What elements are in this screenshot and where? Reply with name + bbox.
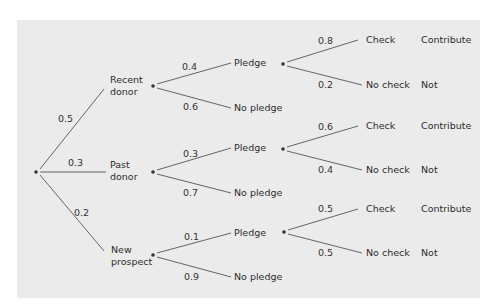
outcome-label: Not xyxy=(421,164,438,175)
category-label: Past xyxy=(110,159,130,170)
pledge-label: Pledge xyxy=(234,227,266,238)
category-label: donor xyxy=(110,86,138,97)
pledge-probability: 0.4 xyxy=(182,61,197,72)
chance-node xyxy=(151,84,155,88)
category-label: New xyxy=(111,244,132,255)
outcome-label: Contribute xyxy=(421,34,472,45)
chance-node xyxy=(151,253,155,257)
chance-node xyxy=(281,147,285,151)
pledge-probability: 0.3 xyxy=(183,148,198,159)
check-label: Check xyxy=(366,120,396,131)
category-label: prospect xyxy=(111,256,153,267)
branch-probability: 0.2 xyxy=(74,207,89,218)
no-pledge-probability: 0.6 xyxy=(183,101,198,112)
no-check-label: No check xyxy=(366,164,410,175)
check-probability: 0.8 xyxy=(318,35,333,46)
pledge-probability: 0.1 xyxy=(184,231,199,242)
outcome-label: Not xyxy=(421,247,438,258)
chance-node xyxy=(151,170,155,174)
no-check-label: No check xyxy=(366,79,410,90)
pledge-label: Pledge xyxy=(234,57,266,68)
probability-tree: 0.5Recentdonor0.3Pastdonor0.2Newprospect… xyxy=(0,0,497,307)
no-pledge-label: No pledge xyxy=(234,102,283,113)
no-pledge-label: No pledge xyxy=(234,187,283,198)
no-pledge-probability: 0.9 xyxy=(184,271,199,282)
no-check-probability: 0.4 xyxy=(318,164,333,175)
no-pledge-label: No pledge xyxy=(234,271,283,282)
outcome-label: Contribute xyxy=(421,203,472,214)
check-probability: 0.6 xyxy=(318,121,333,132)
branch-probability: 0.5 xyxy=(58,113,73,124)
chance-node xyxy=(282,230,286,234)
chance-node xyxy=(281,62,285,66)
branch-line xyxy=(40,175,104,251)
no-pledge-probability: 0.7 xyxy=(183,187,198,198)
check-label: Check xyxy=(366,34,396,45)
root-node xyxy=(34,170,38,174)
category-label: Recent xyxy=(110,74,143,85)
outcome-label: Not xyxy=(421,79,438,90)
outcome-label: Contribute xyxy=(421,120,472,131)
no-check-probability: 0.5 xyxy=(318,247,333,258)
check-probability: 0.5 xyxy=(318,203,333,214)
no-check-probability: 0.2 xyxy=(318,79,333,90)
check-label: Check xyxy=(366,203,396,214)
branch-probability: 0.3 xyxy=(68,157,83,168)
pledge-label: Pledge xyxy=(234,142,266,153)
category-label: donor xyxy=(110,171,138,182)
no-check-label: No check xyxy=(366,247,410,258)
